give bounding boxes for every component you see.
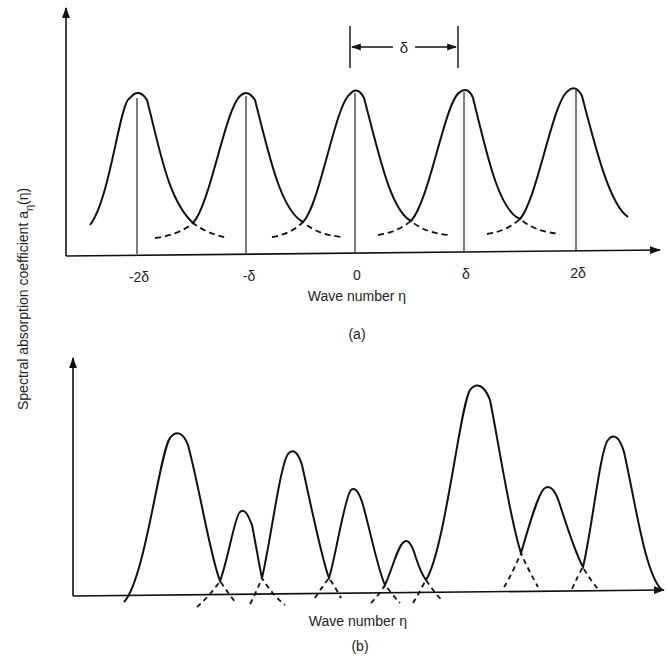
tick-label: -2δ	[129, 269, 149, 285]
tick-label: 0	[353, 267, 361, 283]
tick-label: -δ	[243, 268, 256, 284]
y-axis-label: Spectral absorption coefficient aη(η)	[15, 188, 35, 410]
panel-a: δ -2δ -δ 0 δ 2δ Wave number η (a)	[66, 8, 660, 342]
figure-canvas: δ -2δ -δ 0 δ 2δ Wave number η (a) Spectr…	[0, 0, 668, 657]
panel-a-tick-labels: -2δ -δ 0 δ 2δ	[129, 265, 586, 285]
panel-b-x-axis	[73, 590, 664, 596]
panel-b: Wave number η	[73, 358, 664, 629]
panel-a-caption: (a)	[348, 326, 365, 342]
panel-b-x-axis-label: Wave number η	[309, 613, 407, 629]
panel-b-caption: (b)	[340, 638, 380, 654]
spacing-label: δ	[400, 39, 408, 56]
tick-label: δ	[462, 266, 470, 282]
panel-a-x-axis	[66, 250, 660, 256]
panel-a-overlap-tails	[155, 219, 560, 238]
panel-a-x-axis-label: Wave number η	[308, 288, 406, 304]
tick-label: 2δ	[570, 265, 586, 281]
spacing-bracket: δ	[350, 26, 458, 68]
panel-a-absorption-curve	[90, 88, 628, 225]
panel-b-overlap-tails	[197, 553, 598, 607]
